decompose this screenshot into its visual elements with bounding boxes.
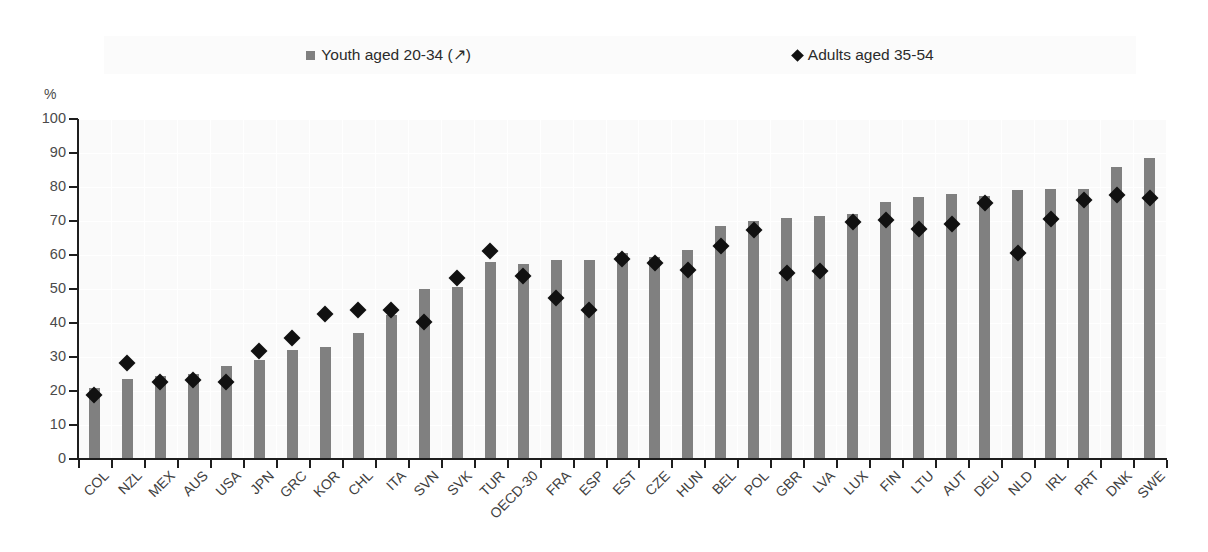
x-axis-tick: [177, 460, 179, 468]
bar-CZE[interactable]: [649, 257, 660, 459]
gridline-vertical: [342, 119, 343, 459]
y-axis-tick-label: 60: [22, 246, 66, 262]
y-axis-tick-label: 30: [22, 348, 66, 364]
bar-NLD[interactable]: [1012, 190, 1023, 459]
x-axis-tick: [441, 460, 443, 468]
x-axis-tick: [309, 460, 311, 468]
x-axis-tick-label-text: DNK: [1102, 466, 1136, 500]
bar-TUR[interactable]: [485, 262, 496, 459]
gridline-horizontal: [78, 119, 1166, 120]
y-axis-tick: [69, 152, 78, 154]
x-axis-tick: [803, 460, 805, 468]
gridline-vertical: [1133, 119, 1134, 459]
x-axis-tick-label-text: ITA: [383, 466, 410, 493]
x-axis-tick: [210, 460, 212, 468]
bar-IRL[interactable]: [1045, 189, 1056, 459]
marker-SVK[interactable]: [449, 270, 466, 287]
bar-SVK[interactable]: [452, 287, 463, 459]
bar-DNK[interactable]: [1111, 167, 1122, 459]
bar-OECD-30[interactable]: [518, 264, 529, 460]
y-axis-tick-label: 50: [22, 280, 66, 296]
x-axis-tick-label-text: JPN: [247, 466, 278, 497]
y-axis-tick: [69, 322, 78, 324]
gridline-vertical: [540, 119, 541, 459]
x-axis-tick: [770, 460, 772, 468]
bar-POL[interactable]: [748, 221, 759, 459]
legend-label-adults: Adults aged 35-54: [808, 46, 934, 64]
bar-HUN[interactable]: [682, 250, 693, 459]
gridline-vertical: [573, 119, 574, 459]
x-axis-tick: [671, 460, 673, 468]
x-axis-tick: [606, 460, 608, 468]
plot-wrapper: [78, 119, 1166, 459]
x-axis-tick-label-text: SWE: [1134, 466, 1169, 501]
gridline-vertical: [1001, 119, 1002, 459]
bar-CHL[interactable]: [353, 333, 364, 459]
y-axis-tick-label: 0: [22, 450, 66, 466]
gridline-vertical: [1034, 119, 1035, 459]
x-axis-tick: [902, 460, 904, 468]
gridline-vertical: [144, 119, 145, 459]
x-axis-tick-label-text: POL: [741, 466, 774, 499]
bar-PRT[interactable]: [1078, 189, 1089, 459]
gridline-vertical: [309, 119, 310, 459]
bar-JPN[interactable]: [254, 360, 265, 459]
gridline-vertical: [968, 119, 969, 459]
y-axis-tick: [69, 118, 78, 120]
bar-GBR[interactable]: [781, 218, 792, 459]
x-axis-tick: [243, 460, 245, 468]
y-axis-tick-label: 90: [22, 144, 66, 160]
x-axis-tick: [342, 460, 344, 468]
gridline-vertical: [276, 119, 277, 459]
x-axis-tick-label-text: NZL: [115, 466, 146, 497]
bar-BEL[interactable]: [715, 226, 726, 459]
x-axis-tick-label-text: EST: [609, 466, 641, 498]
legend-item-youth[interactable]: Youth aged 20-34 (↗): [306, 46, 470, 64]
x-axis-tick-label-text: FIN: [876, 466, 905, 495]
bar-ITA[interactable]: [386, 315, 397, 460]
marker-KOR[interactable]: [317, 305, 334, 322]
bar-FIN[interactable]: [880, 202, 891, 459]
diamond-marker-icon: [791, 49, 804, 62]
bar-LUX[interactable]: [847, 214, 858, 459]
marker-CHL[interactable]: [350, 302, 367, 319]
bar-DEU[interactable]: [979, 196, 990, 460]
bar-EST[interactable]: [617, 253, 628, 459]
x-axis-tick-label-text: CZE: [642, 466, 675, 499]
x-axis-tick-label-text: ESP: [576, 466, 609, 499]
marker-TUR[interactable]: [482, 242, 499, 259]
gridline-vertical: [902, 119, 903, 459]
bar-GRC[interactable]: [287, 350, 298, 459]
gridline-vertical: [869, 119, 870, 459]
bar-AUT[interactable]: [946, 194, 957, 459]
x-axis-tick: [1067, 460, 1069, 468]
bar-ESP[interactable]: [584, 260, 595, 459]
x-axis-tick-label-text: OECD-30: [487, 466, 543, 522]
x-axis-tick: [704, 460, 706, 468]
gridline-vertical: [375, 119, 376, 459]
x-axis-tick: [474, 460, 476, 468]
x-axis-tick: [1001, 460, 1003, 468]
x-axis-tick: [78, 460, 80, 468]
x-axis-tick: [1034, 460, 1036, 468]
y-axis-unit-label: %: [44, 86, 56, 102]
y-axis-tick-label: 80: [22, 178, 66, 194]
y-axis-tick: [69, 254, 78, 256]
x-axis-tick-label-text: USA: [213, 466, 246, 499]
x-axis-tick-label-text: HUN: [673, 466, 707, 500]
x-axis-tick: [869, 460, 871, 468]
x-axis-tick: [408, 460, 410, 468]
x-axis-tick: [111, 460, 113, 468]
gridline-vertical: [1100, 119, 1101, 459]
x-axis-tick-label-text: DEU: [970, 466, 1004, 500]
bar-NZL[interactable]: [122, 379, 133, 459]
gridline-vertical: [671, 119, 672, 459]
x-axis-tick-label-text: NLD: [1004, 466, 1037, 499]
x-axis-tick: [935, 460, 937, 468]
bar-LVA[interactable]: [814, 216, 825, 459]
x-axis-tick-label-text: AUS: [180, 466, 213, 499]
y-axis-tick-label: 100: [22, 110, 66, 126]
bar-KOR[interactable]: [320, 347, 331, 459]
legend-item-adults[interactable]: Adults aged 35-54: [793, 46, 934, 64]
marker-GRC[interactable]: [284, 329, 301, 346]
